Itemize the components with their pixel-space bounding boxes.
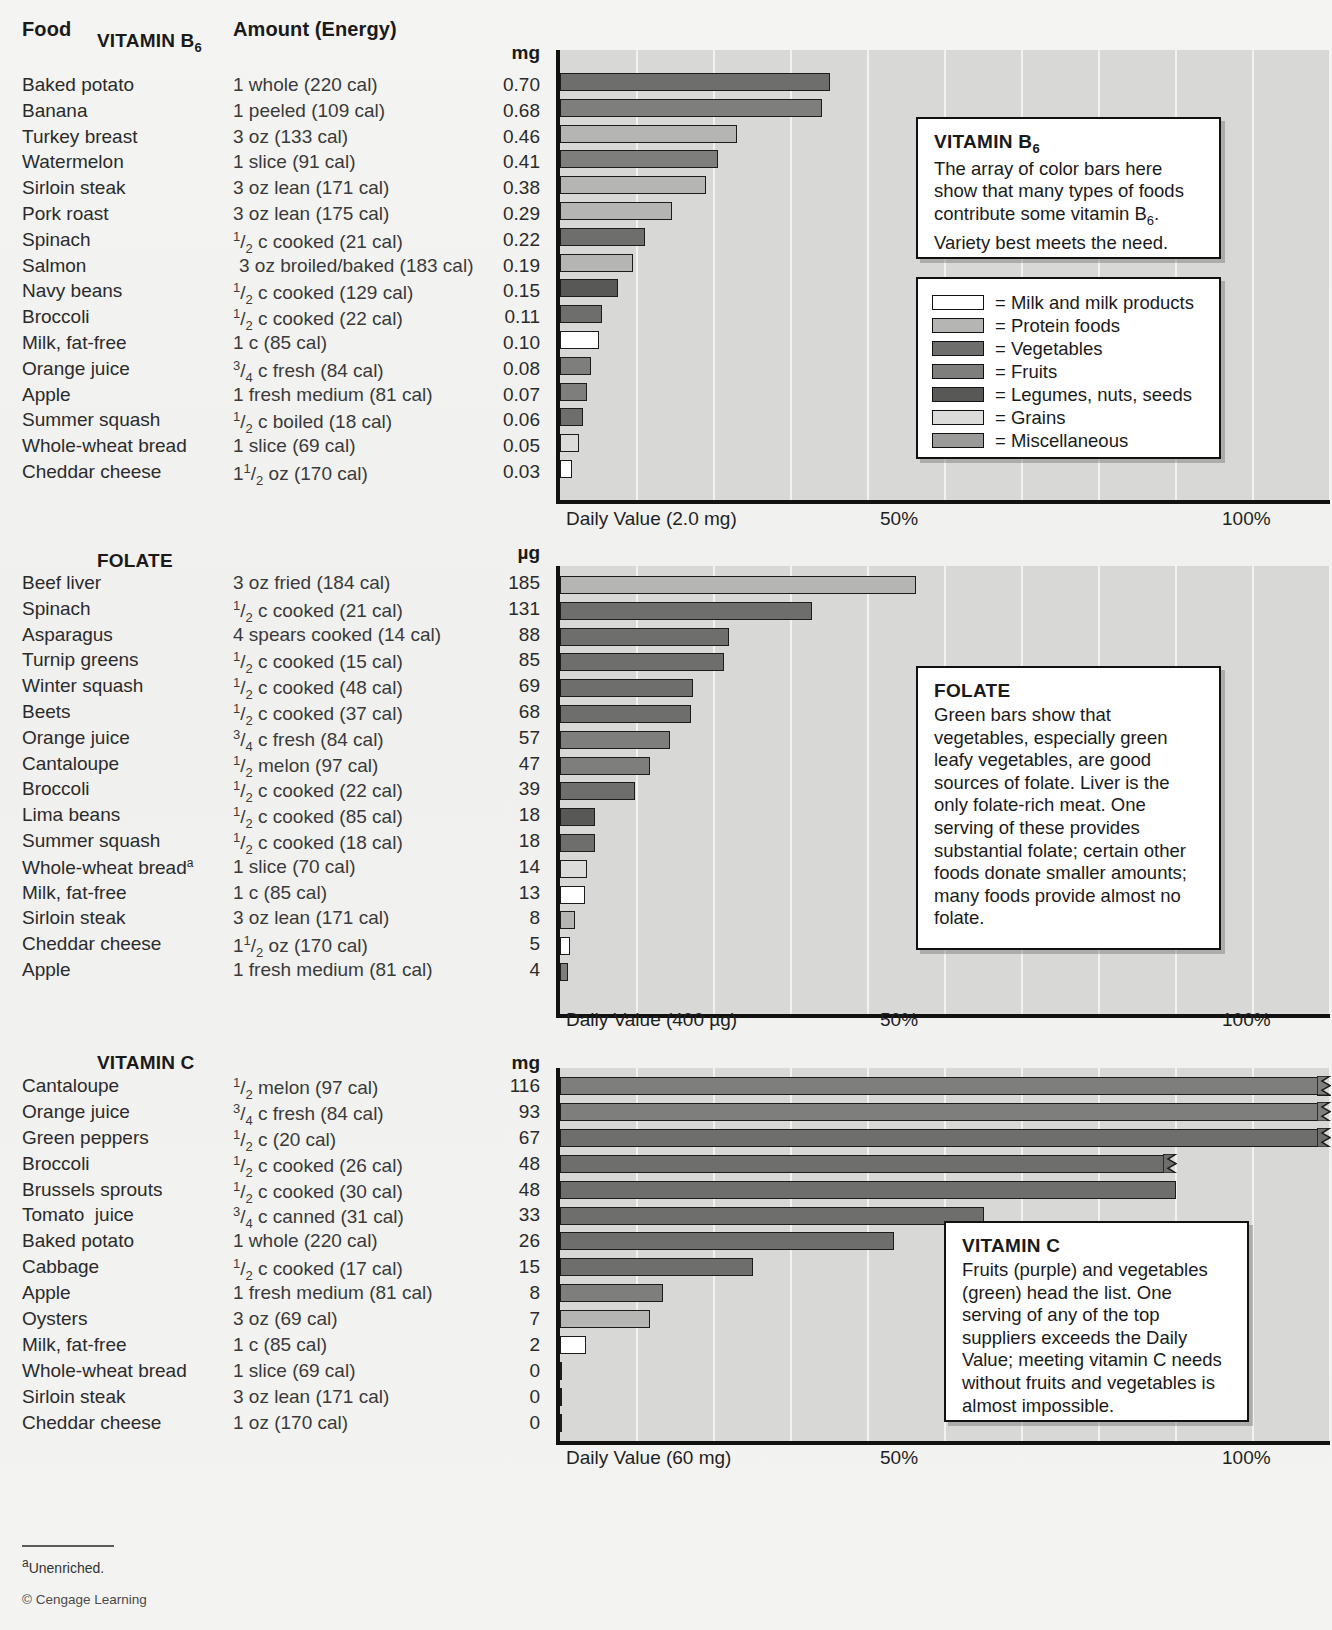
bar	[560, 628, 729, 646]
bar	[560, 1077, 1318, 1095]
food-amount: 11/2 oz (170 cal)	[233, 461, 368, 488]
food-amount: 3/4 c fresh (84 cal)	[233, 727, 384, 754]
food-amount: 1/2 c cooked (22 cal)	[233, 306, 403, 333]
nutrient-value: 0.46	[400, 126, 540, 148]
nutrient-value: 8	[400, 1282, 540, 1304]
food-name: Pork roast	[22, 203, 109, 225]
bar	[560, 125, 737, 143]
legend-label: = Legumes, nuts, seeds	[995, 384, 1192, 406]
nutrient-value: 8	[400, 907, 540, 929]
food-amount: 3 oz lean (175 cal)	[233, 203, 389, 225]
food-amount: 1/2 c cooked (18 cal)	[233, 830, 403, 857]
bar	[560, 860, 587, 878]
food-name: Sirloin steak	[22, 907, 126, 929]
nutrient-value: 5	[400, 933, 540, 955]
nutrient-value: 7	[400, 1308, 540, 1330]
food-name: Whole-wheat bread	[22, 1360, 187, 1382]
unit-label-vitc: mg	[400, 1052, 540, 1074]
bar-overflow-zigzag-icon	[1317, 1128, 1331, 1147]
callout-vitamin-c: VITAMIN C Fruits (purple) and vegetables…	[944, 1221, 1249, 1422]
food-name: Turnip greens	[22, 649, 139, 671]
bar	[560, 1155, 1164, 1173]
column-header-amount: Amount (Energy)	[233, 18, 397, 41]
nutrient-value: 0.05	[400, 435, 540, 457]
nutrient-value: 33	[400, 1204, 540, 1226]
food-name: Cantaloupe	[22, 1075, 119, 1097]
legend-item: = Fruits	[932, 360, 1205, 383]
axis-tick-100-b6: 100%	[1222, 508, 1271, 530]
food-name: Sirloin steak	[22, 177, 126, 199]
nutrient-value: 67	[400, 1127, 540, 1149]
food-amount: 1/2 c cooked (30 cal)	[233, 1179, 403, 1206]
food-amount: 1/2 c boiled (18 cal)	[233, 409, 392, 436]
food-amount: 3 oz lean (171 cal)	[233, 1386, 389, 1408]
food-amount: 1 slice (69 cal)	[233, 1360, 356, 1382]
bar	[560, 460, 572, 478]
food-amount: 1/2 c cooked (85 cal)	[233, 804, 403, 831]
food-name: Apple	[22, 959, 71, 981]
bar	[560, 757, 650, 775]
nutrient-value: 57	[400, 727, 540, 749]
nutrient-value: 0.29	[400, 203, 540, 225]
nutrient-value: 131	[400, 598, 540, 620]
bar	[560, 1388, 562, 1406]
legend-label: = Milk and milk products	[995, 292, 1194, 314]
food-amount: 1/2 c cooked (17 cal)	[233, 1256, 403, 1283]
axis-daily-value-label-vitc: Daily Value (60 mg)	[566, 1447, 731, 1469]
food-amount: 1 peeled (109 cal)	[233, 100, 385, 122]
bar	[560, 1310, 650, 1328]
nutrient-value: 0.06	[400, 409, 540, 431]
bar	[560, 653, 724, 671]
bar	[560, 383, 587, 401]
callout-vitc-title: VITAMIN C	[962, 1235, 1233, 1257]
callout-folate: FOLATE Green bars show that vegetables, …	[916, 666, 1221, 950]
nutrient-value: 69	[400, 675, 540, 697]
nutrient-value: 14	[400, 856, 540, 878]
nutrient-value: 18	[400, 804, 540, 826]
unit-label-b6: mg	[400, 42, 540, 64]
food-name: Orange juice	[22, 727, 130, 749]
food-name: Summer squash	[22, 409, 160, 431]
food-name: Milk, fat-free	[22, 332, 127, 354]
food-amount: 1 c (85 cal)	[233, 882, 327, 904]
nutrient-value: 39	[400, 778, 540, 800]
legend-swatch-icon	[932, 295, 984, 310]
bar	[560, 731, 670, 749]
copyright-notice: © Cengage Learning	[22, 1592, 147, 1607]
bar	[560, 911, 575, 929]
food-amount: 1 slice (69 cal)	[233, 435, 356, 457]
food-amount: 1 whole (220 cal)	[233, 74, 378, 96]
bar	[560, 679, 693, 697]
legend: = Milk and milk products= Protein foods=…	[916, 277, 1221, 459]
nutrient-value: 0.41	[400, 151, 540, 173]
food-name: Cantaloupe	[22, 753, 119, 775]
callout-folate-title: FOLATE	[934, 680, 1205, 702]
food-name: Orange juice	[22, 1101, 130, 1123]
nutrient-value: 68	[400, 701, 540, 723]
nutrient-value: 116	[400, 1075, 540, 1097]
food-name: Banana	[22, 100, 88, 122]
food-amount: 3 oz fried (184 cal)	[233, 572, 390, 594]
food-amount: 1 c (85 cal)	[233, 1334, 327, 1356]
food-name: Cheddar cheese	[22, 933, 161, 955]
bar	[560, 576, 916, 594]
nutrient-value: 26	[400, 1230, 540, 1252]
legend-item: = Milk and milk products	[932, 291, 1205, 314]
bar	[560, 886, 585, 904]
food-name: Broccoli	[22, 778, 90, 800]
legend-swatch-icon	[932, 387, 984, 402]
bar	[560, 1129, 1318, 1147]
nutrient-value: 13	[400, 882, 540, 904]
bar	[560, 279, 618, 297]
food-amount: 1/2 c cooked (129 cal)	[233, 280, 413, 307]
food-amount: 3/4 c fresh (84 cal)	[233, 358, 384, 385]
legend-label: = Miscellaneous	[995, 430, 1128, 452]
bar	[560, 1103, 1318, 1121]
legend-swatch-icon	[932, 341, 984, 356]
food-name: Orange juice	[22, 358, 130, 380]
axis-daily-value-label-folate: Daily Value (400 µg)	[566, 1009, 737, 1031]
figure-page: Food Amount (Energy) VITAMIN B6mgBaked p…	[0, 0, 1332, 1630]
bar	[560, 602, 812, 620]
chart-title-folate: FOLATE	[97, 550, 173, 572]
nutrient-value: 0.70	[400, 74, 540, 96]
